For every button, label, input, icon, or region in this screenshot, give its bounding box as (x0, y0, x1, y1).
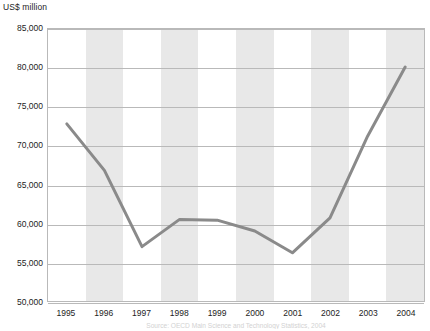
x-tick-label-1996: 1996 (85, 305, 123, 321)
x-tick-label-2000: 2000 (236, 305, 274, 321)
x-tick-label-2002: 2002 (312, 305, 350, 321)
x-tick-label-1997: 1997 (123, 305, 161, 321)
y-tick-label-55000: 55,000 (17, 258, 43, 268)
x-tick-label-2003: 2003 (349, 305, 387, 321)
y-tick-label-85000: 85,000 (17, 23, 43, 33)
y-tick-label-50000: 50,000 (17, 297, 43, 307)
source-note: Source: OECD Main Science and Technology… (47, 322, 425, 329)
gridline-50000 (48, 303, 424, 304)
line-chart: US$ million 85,00080,00075,00070,00065,0… (0, 0, 430, 331)
y-axis-tick-labels: 85,00080,00075,00070,00065,00060,00055,0… (0, 28, 43, 302)
x-axis-tick-labels: 1995199619971998199920002001200220032004 (47, 305, 425, 321)
y-axis-unit-label: US$ million (3, 2, 47, 12)
y-tick-label-80000: 80,000 (17, 62, 43, 72)
y-tick-label-60000: 60,000 (17, 219, 43, 229)
data-series-line (48, 29, 424, 301)
y-tick-label-75000: 75,000 (17, 101, 43, 111)
x-tick-label-1998: 1998 (160, 305, 198, 321)
y-tick-label-65000: 65,000 (17, 180, 43, 190)
x-tick-label-1999: 1999 (198, 305, 236, 321)
x-tick-label-1995: 1995 (47, 305, 85, 321)
plot-area (47, 28, 425, 302)
x-tick-label-2004: 2004 (387, 305, 425, 321)
x-tick-label-2001: 2001 (274, 305, 312, 321)
y-tick-label-70000: 70,000 (17, 140, 43, 150)
